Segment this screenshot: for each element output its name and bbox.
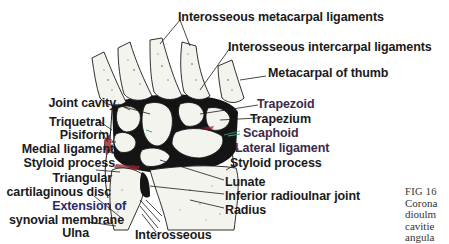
label-lunate: Lunate <box>225 176 265 189</box>
hamate <box>116 106 140 132</box>
label-pisiform: Pisiform <box>60 129 109 142</box>
caption-line: dioulm <box>405 209 437 221</box>
forearm-bones <box>110 166 238 230</box>
figure-caption: FIG 16 Corona dioulm cavitie angula <box>405 186 437 244</box>
label-medial-ligament: Medial ligament <box>22 143 114 156</box>
label-ulna: Ulna <box>62 227 89 240</box>
label-trapezium: Trapezium <box>250 113 311 126</box>
caption-line: angula <box>405 232 437 244</box>
label-interosseous-intercarpal-ligaments: Interosseous intercarpal ligaments <box>228 41 432 54</box>
metacarpal-thumb <box>218 60 244 103</box>
label-trapezoid: Trapezoid <box>257 98 314 111</box>
metacarpal-3 <box>150 38 182 99</box>
caption-line: FIG 16 <box>405 186 437 198</box>
label-interosseous-metacarpal-ligaments: Interosseous metacarpal ligaments <box>178 11 384 24</box>
label-extension-of: Extension of <box>52 200 126 213</box>
label-styloid-process-ulna: Styloid process <box>23 157 115 170</box>
trapezoid <box>178 102 204 126</box>
label-radius: Radius <box>225 204 266 217</box>
label-inferior-radioulnar-joint: Inferior radioulnar joint <box>225 190 360 203</box>
label-scaphoid: Scaphoid <box>243 127 298 140</box>
label-triangular: Triangular <box>53 172 112 185</box>
label-styloid-process-radius: Styloid process <box>230 157 322 170</box>
label-cartilaginous-disc: cartilaginous disc <box>7 186 111 199</box>
metacarpal-4 <box>118 42 152 100</box>
label-lateral-ligament: Lateral ligament <box>235 142 329 155</box>
metacarpal-2 <box>181 42 210 99</box>
capitate <box>142 103 172 147</box>
label-metacarpal-of-thumb: Metacarpal of thumb <box>268 67 388 80</box>
label-interosseous: Interosseous <box>135 229 212 242</box>
label-joint-cavity: Joint cavity <box>48 97 116 110</box>
